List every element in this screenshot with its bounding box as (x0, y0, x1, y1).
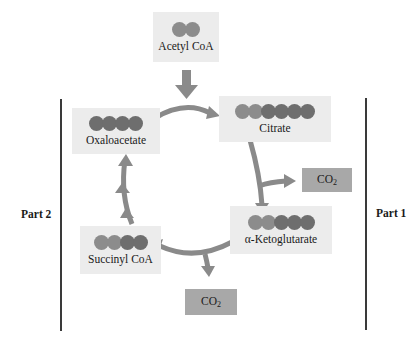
molecule-label: Citrate (259, 122, 290, 134)
carbon-dot (300, 104, 315, 119)
carbon-dots (235, 104, 315, 119)
molecule-label: Succinyl CoA (88, 253, 153, 265)
molecule-citrate: Citrate (219, 96, 331, 142)
carbon-dot (185, 22, 200, 37)
molecule-oxaloacetate: Oxaloacetate (72, 108, 160, 154)
molecule-alpha-ketoglutarate: α-Ketoglutarate (230, 206, 332, 254)
arrow-oxaloacetate-to-citrate (155, 108, 210, 118)
carbon-dots (94, 235, 148, 250)
carbon-dots (248, 215, 315, 230)
co2-release-arrow-2 (205, 254, 208, 268)
co2-release-arrow-1 (259, 181, 286, 186)
acetyl-coa-input-arrow (175, 70, 198, 99)
molecule-label: Oxaloacetate (86, 134, 146, 146)
co2-label: CO2 (201, 295, 221, 309)
arrow-citrate-to-ketoglutarate (250, 140, 262, 205)
carbon-dots (89, 116, 143, 131)
molecule-succinyl-coa: Succinyl CoA (80, 226, 161, 274)
arrow-ketoglutarate-to-succinyl (160, 242, 232, 253)
molecule-label: Acetyl CoA (158, 40, 213, 52)
molecule-acetyl-coa: Acetyl CoA (153, 12, 219, 62)
bracket-right (365, 98, 367, 330)
part-1-label: Part 1 (376, 207, 406, 219)
carbon-dot (300, 215, 315, 230)
part-2-label: Part 2 (21, 208, 51, 220)
carbon-dots (172, 22, 200, 37)
carbon-dot (133, 235, 148, 250)
bracket-left (60, 99, 62, 331)
molecule-label: α-Ketoglutarate (245, 233, 317, 245)
co2-label: CO2 (317, 173, 337, 187)
co2-box-2: CO2 (185, 289, 237, 315)
co2-box-1: CO2 (302, 168, 352, 192)
carbon-dot (128, 116, 143, 131)
